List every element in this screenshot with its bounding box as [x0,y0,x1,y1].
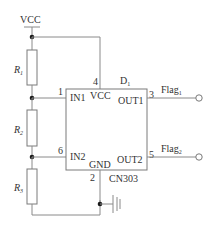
flag1-label: Flag1 [161,84,182,96]
wire-vcc-to-pin4 [32,37,100,89]
resistor-r1 [27,50,37,85]
resistor-r2 [27,110,37,146]
pin-gnd-label: GND [89,159,111,170]
flag2-label: Flag2 [161,143,182,155]
pin-in2-label: IN2 [70,151,86,162]
r2-label: R2 [13,124,23,136]
ic-designator: D1 [120,75,130,87]
r3-label: R3 [13,182,23,194]
resistor-r3 [27,169,37,204]
flag1-terminal [196,95,202,101]
pin-out2-label: OUT2 [117,154,143,165]
ic-part-number: CN303 [109,173,138,184]
vcc-supply-label: VCC [20,14,41,25]
r1-label: R1 [13,64,23,76]
pin-2-number: 2 [90,172,95,183]
pin-1-number: 1 [58,86,63,97]
circuit-schematic: VCC R1 R2 R3 D1 CN303 1 4 3 6 2 5 IN1 VC… [0,0,221,230]
pin-vcc-label: VCC [90,90,111,101]
pin-out1-label: OUT1 [118,95,144,106]
pin-in1-label: IN1 [70,92,86,103]
flag2-terminal [196,154,202,160]
pin-4-number: 4 [93,76,98,87]
ground-icon [113,195,120,213]
pin-6-number: 6 [58,145,63,156]
wire-r3-to-gnd [32,200,100,215]
pin-5-number: 5 [149,149,154,160]
